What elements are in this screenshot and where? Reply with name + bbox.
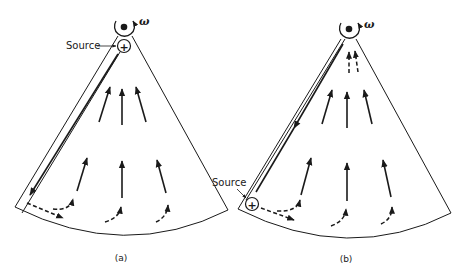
- dashed-flow-arrow: [53, 199, 73, 209]
- flow-arrow: [157, 160, 166, 193]
- flow-arrow: [77, 158, 87, 191]
- channel-wall-b: [246, 39, 345, 200]
- pivot-dot-icon: [121, 24, 128, 31]
- flow-arrow: [99, 87, 110, 122]
- sector-outline-b: [238, 39, 451, 238]
- channel-flow-arrow-b: [294, 44, 343, 128]
- rotation-indicator-b: ω: [340, 18, 375, 38]
- dashed-flow-arrow: [355, 51, 358, 72]
- channel-flow-arrow-a: [30, 54, 118, 195]
- dashed-flow-arrow: [277, 200, 300, 211]
- flow-arrow: [136, 87, 146, 122]
- plus-icon: +: [247, 199, 256, 212]
- source-label-a: Source: [66, 40, 100, 51]
- dashed-flow-arrow: [156, 205, 168, 222]
- caption-b: (b): [340, 254, 353, 264]
- panel-b: ω + Source (b): [212, 18, 451, 264]
- dashed-flow-arrow: [331, 209, 346, 226]
- dashed-flow-arrow: [381, 207, 392, 224]
- omega-label: ω: [139, 15, 150, 28]
- pivot-dot-icon: [346, 26, 353, 33]
- dashed-flow-arrow: [261, 208, 294, 220]
- flow-arrow: [301, 158, 311, 195]
- caption-a: (a): [115, 253, 128, 263]
- panel-a: ω + Source (a): [15, 15, 228, 263]
- channel-flow-line: [256, 128, 294, 192]
- flow-arrow: [383, 160, 391, 197]
- omega-label: ω: [364, 18, 375, 31]
- diagram-canvas: ω + Source (a) ω: [0, 0, 462, 278]
- flow-arrow: [364, 90, 372, 124]
- source-label-b: Source: [212, 177, 246, 188]
- source-marker-a: + Source: [66, 40, 131, 54]
- plus-icon: +: [119, 41, 128, 54]
- channel-wall-a: [22, 52, 120, 213]
- dashed-flow-arrow: [27, 203, 63, 218]
- flow-arrow: [322, 90, 332, 124]
- dashed-flow-arrow: [105, 207, 121, 222]
- sector-outline-a: [15, 36, 228, 235]
- rotation-indicator-a: ω: [115, 15, 150, 36]
